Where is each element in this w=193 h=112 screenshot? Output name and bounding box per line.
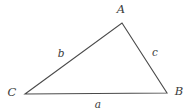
triangle-diagram: A B C a b c — [0, 0, 193, 112]
vertex-label-b: B — [175, 86, 183, 98]
vertex-label-a: A — [117, 4, 125, 16]
vertex-label-c: C — [8, 87, 17, 99]
triangle-shape — [0, 0, 193, 112]
side-label-c: c — [152, 47, 158, 58]
side-label-b: b — [58, 48, 65, 59]
side-label-a: a — [95, 99, 101, 110]
triangle-outline — [25, 23, 167, 94]
